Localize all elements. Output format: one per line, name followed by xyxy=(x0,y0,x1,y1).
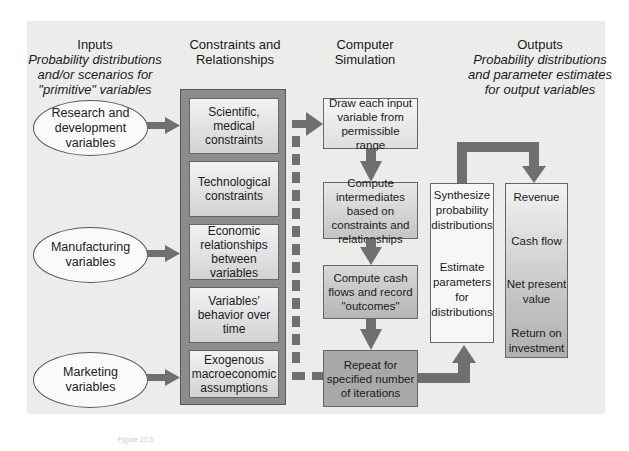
arrow-right-icon xyxy=(147,245,180,262)
arrow-right-icon xyxy=(292,112,323,136)
arrow-right-icon xyxy=(147,369,180,386)
figure-caption: Figure 10.5 xyxy=(118,436,153,443)
arrows-layer xyxy=(0,0,629,451)
arrow-up-icon xyxy=(418,345,476,383)
arrow-down-icon xyxy=(360,149,382,182)
arrow-loop-icon xyxy=(457,142,546,183)
arrow-right-icon xyxy=(147,117,180,134)
dashed-connector xyxy=(292,136,323,380)
arrow-down-icon xyxy=(360,319,382,350)
arrow-down-icon xyxy=(360,239,382,265)
